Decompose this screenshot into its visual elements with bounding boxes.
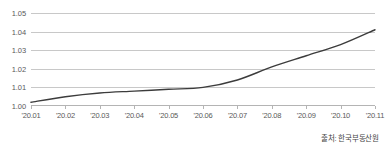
source-note: 출처: 한국부동산원: [321, 132, 379, 143]
y-axis-tick-label: 1.05: [12, 9, 26, 18]
x-axis-tick-label: '20.07: [228, 111, 247, 120]
series-line-path: [31, 30, 375, 103]
line-chart-figure: 1.001.011.021.031.041.05 '20.01'20.02'20…: [0, 0, 389, 153]
x-axis-tick-mark: [100, 106, 101, 109]
x-axis-tick-mark: [237, 106, 238, 109]
x-axis-tick-mark: [169, 106, 170, 109]
y-axis-tick-label: 1.03: [12, 46, 26, 55]
y-axis-tick-label: 1.01: [12, 83, 26, 92]
x-axis-tick-label: '20.09: [297, 111, 316, 120]
x-axis-tick-mark: [341, 106, 342, 109]
y-axis-tick-label: 1.02: [12, 64, 26, 73]
x-axis-tick-mark: [306, 106, 307, 109]
x-axis-tick-label: '20.03: [90, 111, 109, 120]
y-axis-tick-label: 1.00: [12, 102, 26, 111]
x-axis-tick-mark: [65, 106, 66, 109]
x-axis-tick-label: '20.06: [193, 111, 212, 120]
x-axis-tick-label: '20.11: [366, 111, 384, 120]
series-line-chart: [31, 13, 375, 106]
x-axis-tick-label: '20.04: [125, 111, 144, 120]
x-axis-tick-mark: [134, 106, 135, 109]
x-axis-tick-label: '20.05: [159, 111, 178, 120]
x-axis-tick-label: '20.01: [21, 111, 40, 120]
y-axis-tick-label: 1.04: [12, 27, 26, 36]
x-axis-tick-label: '20.10: [331, 111, 350, 120]
x-axis-tick-mark: [375, 106, 376, 109]
x-axis-tick-mark: [31, 106, 32, 109]
x-axis-tick-mark: [272, 106, 273, 109]
x-axis-tick-label: '20.02: [56, 111, 75, 120]
x-axis-tick-label: '20.08: [262, 111, 281, 120]
plot-area: 1.001.011.021.031.041.05 '20.01'20.02'20…: [31, 13, 375, 106]
x-axis-tick-mark: [203, 106, 204, 109]
